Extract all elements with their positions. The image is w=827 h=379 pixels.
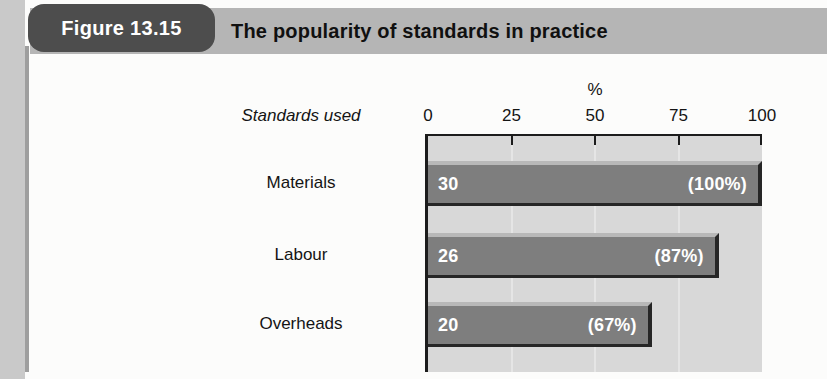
bar-percent-label: (67%) (588, 315, 637, 336)
figure-title: The popularity of standards in practice (231, 8, 608, 54)
bar-labour: 26(87%) (428, 233, 719, 278)
bar-value-label: 20 (438, 315, 458, 336)
figure-number-badge: Figure 13.15 (28, 4, 215, 52)
x-tick-label: 75 (669, 106, 688, 126)
figure-13-15: The popularity of standards in practice … (0, 0, 827, 379)
figure-left-rule (25, 46, 29, 372)
x-tick-label: 0 (423, 106, 432, 126)
category-label-labour: Labour (205, 245, 397, 266)
x-tick-label: 100 (748, 106, 776, 126)
page-edge-strip (0, 0, 25, 379)
x-tick-mark (594, 136, 596, 145)
x-tick-mark (511, 136, 513, 145)
x-tick-label: 25 (502, 106, 521, 126)
bar-percent-label: (87%) (655, 246, 704, 267)
bar-percent-label: (100%) (688, 174, 747, 195)
bar-overheads: 20(67%) (428, 302, 652, 347)
x-tick-label: 50 (586, 106, 605, 126)
x-axis-unit-label: % (587, 80, 602, 100)
x-tick-mark (760, 136, 762, 145)
category-label-overheads: Overheads (205, 314, 397, 335)
x-tick-mark (678, 136, 680, 145)
category-label-materials: Materials (205, 173, 397, 194)
bar-value-label: 30 (438, 174, 458, 195)
bar-materials: 30(100%) (428, 161, 762, 206)
figure-number: Figure 13.15 (61, 17, 181, 40)
plot-area: 30(100%)26(87%)20(67%) (425, 134, 762, 372)
y-axis-title: Standards used (205, 106, 397, 128)
bar-value-label: 26 (438, 246, 458, 267)
